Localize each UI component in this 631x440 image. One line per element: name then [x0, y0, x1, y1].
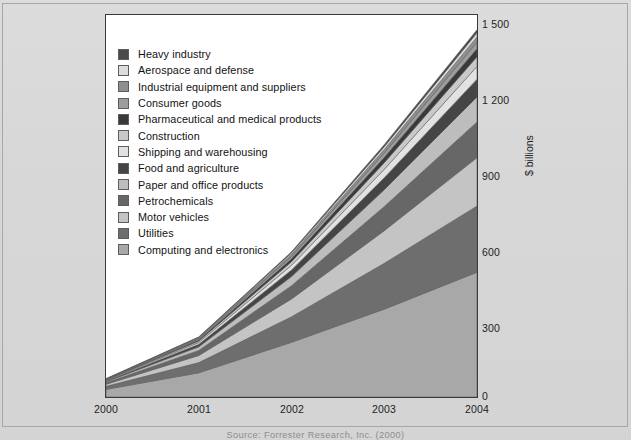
legend-item-label: Heavy industry: [138, 48, 211, 60]
source-note: Source: Forrester Research, Inc. (2000): [0, 430, 631, 440]
legend-item-label: Aerospace and defense: [138, 64, 254, 76]
x-tick-2002: 2002: [280, 403, 304, 415]
legend-item: Paper and office products: [118, 176, 322, 192]
legend-item: Shipping and warehousing: [118, 144, 322, 160]
legend-item-label: Utilities: [138, 227, 174, 239]
legend-item-label: Industrial equipment and suppliers: [138, 81, 306, 93]
y-tick-300: 300: [482, 322, 500, 334]
legend-item-label: Construction: [138, 130, 200, 142]
legend-swatch-icon: [118, 244, 129, 255]
y-tick-900: 900: [482, 170, 500, 182]
legend-swatch-icon: [118, 228, 129, 239]
chart-legend: Heavy industryAerospace and defenseIndus…: [118, 46, 322, 258]
y-tick-1200: 1 200: [482, 94, 509, 106]
legend-swatch-icon: [118, 179, 129, 190]
legend-item: Food and agriculture: [118, 160, 322, 176]
legend-item: Consumer goods: [118, 95, 322, 111]
legend-swatch-icon: [118, 212, 129, 223]
x-tick-2001: 2001: [187, 403, 211, 415]
y-tick-1500: 1 500: [482, 18, 509, 30]
x-tick-2003: 2003: [372, 403, 396, 415]
legend-swatch-icon: [118, 65, 129, 76]
legend-swatch-icon: [118, 98, 129, 109]
legend-item-label: Paper and office products: [138, 179, 263, 191]
legend-item: Motor vehicles: [118, 209, 322, 225]
legend-item: Construction: [118, 127, 322, 143]
legend-item-label: Petrochemicals: [138, 195, 213, 207]
legend-item-label: Computing and electronics: [138, 244, 268, 256]
legend-swatch-icon: [118, 146, 129, 157]
legend-item-label: Consumer goods: [138, 97, 222, 109]
legend-item: Utilities: [118, 225, 322, 241]
legend-swatch-icon: [118, 195, 129, 206]
y-tick-600: 600: [482, 246, 500, 258]
legend-swatch-icon: [118, 163, 129, 174]
legend-item-label: Food and agriculture: [138, 162, 239, 174]
legend-item: Pharmaceutical and medical products: [118, 111, 322, 127]
legend-item-label: Pharmaceutical and medical products: [138, 113, 322, 125]
legend-item: Heavy industry: [118, 46, 322, 62]
legend-item: Aerospace and defense: [118, 62, 322, 78]
legend-item: Industrial equipment and suppliers: [118, 79, 322, 95]
x-tick-2000: 2000: [94, 403, 118, 415]
legend-item: Computing and electronics: [118, 242, 322, 258]
legend-swatch-icon: [118, 114, 129, 125]
legend-swatch-icon: [118, 130, 129, 141]
y-tick-0: 0: [482, 390, 488, 402]
legend-item: Petrochemicals: [118, 193, 322, 209]
legend-swatch-icon: [118, 81, 129, 92]
legend-item-label: Motor vehicles: [138, 211, 209, 223]
legend-swatch-icon: [118, 49, 129, 60]
x-tick-2004: 2004: [465, 403, 489, 415]
legend-item-label: Shipping and warehousing: [138, 146, 268, 158]
y-axis-label: $ billions: [523, 135, 535, 176]
